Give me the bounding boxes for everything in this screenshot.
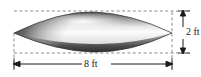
solid-body	[12, 12, 172, 54]
left-tip-shadow	[12, 12, 70, 54]
width-dimension-label: 8 ft	[83, 59, 99, 69]
figure-canvas	[0, 0, 201, 77]
height-dimension-label: 2 ft	[185, 27, 201, 37]
dimensioned-solid-figure: 8 ft 2 ft	[0, 0, 201, 77]
